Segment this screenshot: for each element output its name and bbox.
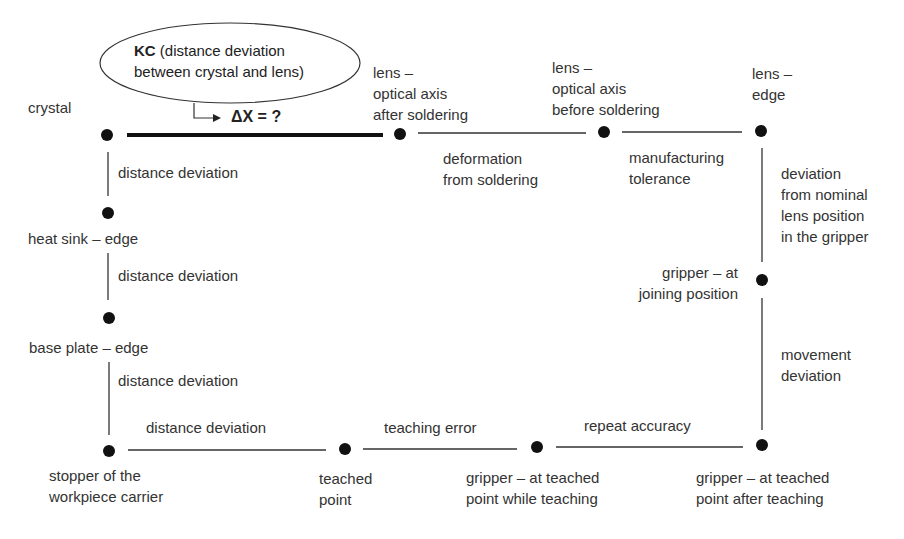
node-stopper (103, 445, 115, 457)
label-stopper: stopper of the workpiece carrier (49, 465, 163, 507)
node-heat-sink-edge (102, 207, 114, 219)
label-lens-after-soldering: lens – optical axis after soldering (373, 62, 468, 125)
label-gripper-while-teaching: gripper – at teached point while teachin… (466, 467, 599, 509)
label-heat-sink-edge: heat sink – edge (28, 228, 138, 249)
label-lens-before-soldering: lens – optical axis before soldering (552, 57, 660, 120)
label-gripper-after-teaching: gripper – at teached point after teachin… (696, 467, 829, 509)
node-teached-point (339, 443, 351, 455)
label-teached-point: teached point (319, 468, 372, 510)
label-manufacturing-tolerance: manufacturing tolerance (629, 147, 724, 189)
kc-label: KC (134, 42, 156, 59)
kc-desc-line1: (distance deviation (156, 42, 285, 59)
label-deviation-gripper: deviation from nominal lens position in … (781, 163, 869, 247)
node-base-plate-edge (103, 312, 115, 324)
node-lens-edge (755, 125, 767, 137)
node-lens-before-soldering (598, 126, 610, 138)
node-gripper-while-teaching (531, 441, 543, 453)
label-gripper-joining: gripper – at joining position (610, 262, 738, 304)
kc-callout-text: KC (distance deviationbetween crystal an… (134, 40, 304, 82)
label-repeat-accuracy: repeat accuracy (584, 415, 691, 436)
callout-arrow (194, 103, 213, 118)
label-base-plate-edge: base plate – edge (29, 337, 148, 358)
callout-arrowhead (213, 114, 221, 122)
label-crystal: crystal (28, 97, 71, 118)
label-movement-deviation: movement deviation (781, 344, 851, 386)
node-gripper-joining (756, 274, 768, 286)
label-deformation: deformation from soldering (443, 148, 538, 190)
label-teaching-error: teaching error (384, 417, 477, 438)
node-gripper-after-teaching (756, 439, 768, 451)
delta-x-label: ΔX = ? (231, 108, 281, 126)
label-distance-deviation-3: distance deviation (118, 370, 238, 391)
node-crystal (101, 129, 113, 141)
label-lens-edge: lens – edge (752, 63, 792, 105)
node-lens-after-soldering (394, 128, 406, 140)
label-distance-deviation-2: distance deviation (118, 265, 238, 286)
kc-desc-line2: between crystal and lens) (134, 63, 304, 80)
label-distance-deviation-1: distance deviation (118, 162, 238, 183)
label-distance-deviation-bottom: distance deviation (146, 417, 266, 438)
